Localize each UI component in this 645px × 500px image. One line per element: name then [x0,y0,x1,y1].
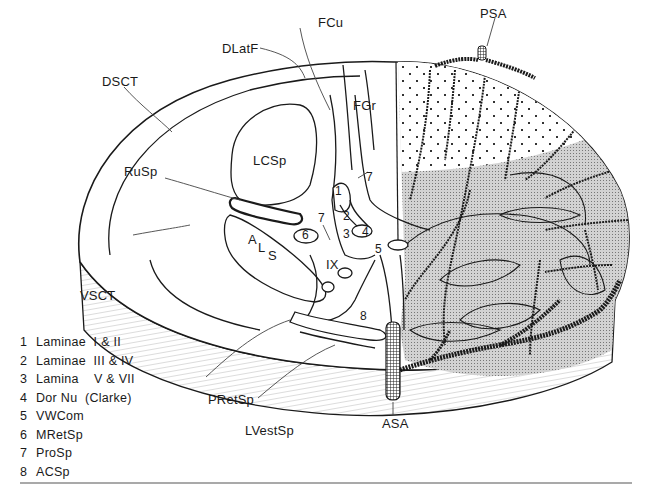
label-asa: ASA [382,417,409,430]
legend-item: 6MRetSp [20,426,135,445]
label-lvestsp: LVestSp [245,424,294,437]
label-ix: IX [326,258,339,271]
label-vsct: VSCT [80,289,115,302]
legend-item: 2Laminae III & IV [20,352,135,371]
label-mretsp-6: 6 [302,229,309,241]
legend-item: 4Dor Nu (Clarke) [20,389,135,408]
label-dor-nu-4: 4 [362,226,369,238]
label-dsct: DSCT [102,75,138,88]
legend-item: 1Laminae I & II [20,333,135,352]
label-lamina-2: 2 [343,210,350,222]
legend-item: 3Lamina V & VII [20,370,135,389]
label-fgr: FGr [353,99,376,112]
label-lamina-3: 3 [343,228,350,240]
legend: 1Laminae I & II 2Laminae III & IV 3Lamin… [20,333,135,481]
legend-item: 5VWCom [20,407,135,426]
label-als-s: S [268,249,277,262]
label-dlatf: DLatF [222,42,258,55]
right-half-shading [390,55,640,385]
label-prosp-7a: 7 [366,171,373,183]
label-prosp-7b: 7 [318,212,325,224]
label-rusp: RuSp [124,165,157,178]
legend-item: 8ACSp [20,463,135,482]
label-fcu: FCu [318,16,343,29]
bottom-divider [20,482,632,484]
label-psa: PSA [480,7,507,20]
label-als-a: A [248,233,257,246]
label-lcsp: LCSp [253,154,286,167]
label-lamina-1: 1 [335,185,342,197]
legend-item: 7ProSp [20,444,135,463]
label-vwcom-5: 5 [375,243,382,255]
label-acsp-8: 8 [360,310,367,322]
label-pretsp: PRetSp [208,393,254,406]
label-als-l: L [258,241,265,254]
